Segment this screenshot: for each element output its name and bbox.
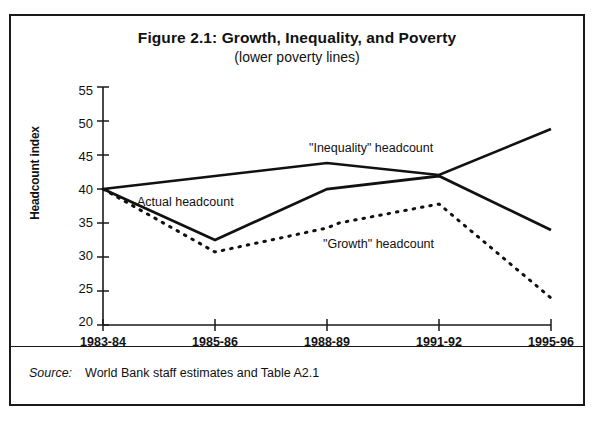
source-divider [11, 346, 583, 347]
source-label: Source: [29, 366, 72, 380]
annotation-actual-headcount: Actual headcount [137, 196, 234, 209]
annotation-growth-headcount: "Growth" headcount [323, 238, 434, 251]
chart-svg [11, 16, 587, 408]
source-note: Source: World Bank staff estimates and T… [29, 366, 319, 380]
source-text: World Bank staff estimates and Table A2.… [85, 366, 319, 380]
chart-plot-area: Headcount index 55 50 45 40 35 30 25 20 [11, 16, 587, 408]
series-inequality-headcount [103, 129, 551, 189]
annotation-inequality-headcount: "Inequality" headcount [309, 142, 433, 155]
figure-frame: Figure 2.1: Growth, Inequality, and Pove… [9, 14, 585, 406]
